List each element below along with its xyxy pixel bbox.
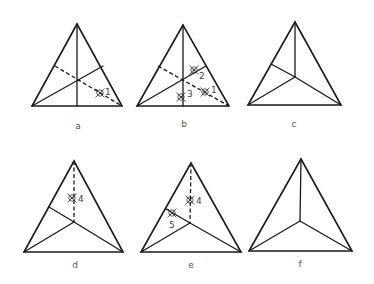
- panel-label: c: [292, 119, 297, 129]
- panel-d: 4 d: [24, 161, 123, 270]
- weld-mark-icon: [186, 196, 195, 205]
- panel-label: d: [72, 260, 78, 270]
- weld-mark-icon: [168, 209, 177, 218]
- dashed-member: [55, 66, 122, 106]
- panel-a: 1 a: [32, 24, 122, 131]
- weld-number: 4: [196, 196, 202, 206]
- panel-f: f: [249, 159, 352, 269]
- vertical-member: [300, 159, 301, 221]
- weld-mark-icon: [190, 66, 199, 75]
- panel-c: c: [248, 22, 341, 129]
- weld-mark-icon: [177, 93, 186, 102]
- weld-number: 1: [105, 87, 111, 97]
- panel-e: 4 5 e: [141, 163, 241, 270]
- weld-sequence-figure: 1 a 1 2 3 b c 4 d: [0, 0, 374, 284]
- panel-label: e: [188, 260, 194, 270]
- weld-number: 3: [187, 89, 193, 99]
- left-member: [271, 64, 295, 77]
- weld-number: 1: [211, 85, 217, 95]
- weld-mark-icon: [96, 89, 105, 98]
- weld-mark-icon: [201, 88, 210, 97]
- weld-number: 2: [199, 71, 205, 81]
- weld-number: 4: [78, 194, 84, 204]
- weld-mark-icon: [68, 194, 77, 203]
- panel-label: b: [181, 119, 187, 129]
- panel-label: f: [298, 259, 302, 269]
- panel-label: a: [75, 121, 81, 131]
- weld-number: 5: [169, 220, 175, 230]
- dashed-member: [190, 163, 191, 223]
- left-member: [49, 207, 74, 222]
- panel-b: 1 2 3 b: [137, 25, 229, 129]
